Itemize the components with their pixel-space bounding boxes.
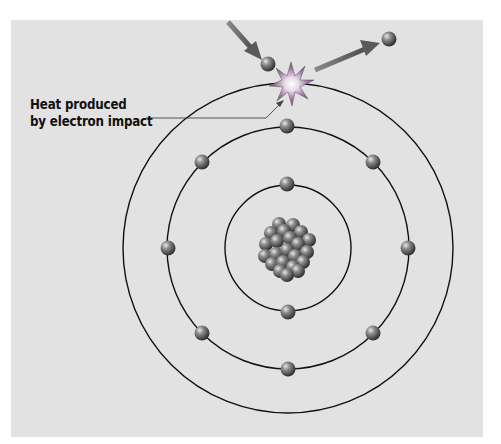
electron bbox=[280, 177, 295, 192]
heat-label: Heat produced by electron impact bbox=[30, 96, 152, 130]
electron bbox=[281, 362, 296, 377]
incoming-electron bbox=[261, 57, 276, 72]
heat-label-line2: by electron impact bbox=[30, 113, 152, 130]
electron bbox=[161, 241, 176, 256]
electron bbox=[366, 326, 381, 341]
outgoing-electron bbox=[382, 32, 397, 47]
electron bbox=[195, 326, 210, 341]
incoming-arrow-icon bbox=[228, 22, 262, 60]
nucleus bbox=[258, 217, 316, 282]
label-leader-line bbox=[146, 100, 284, 118]
outgoing-arrow-icon bbox=[315, 40, 380, 70]
atom-diagram bbox=[0, 0, 501, 444]
heat-label-line1: Heat produced bbox=[30, 96, 152, 113]
electron bbox=[195, 155, 210, 170]
electron bbox=[281, 305, 296, 320]
electron bbox=[280, 119, 295, 134]
electron bbox=[366, 155, 381, 170]
electron bbox=[401, 241, 416, 256]
